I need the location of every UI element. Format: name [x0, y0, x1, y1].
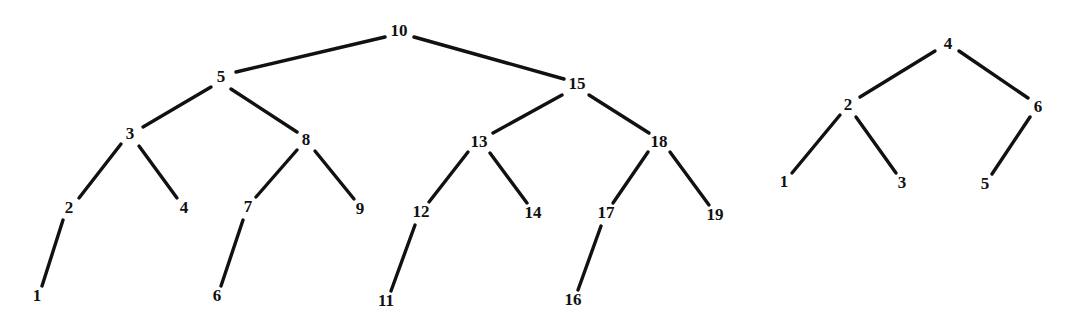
tree-node-label: 12	[413, 202, 430, 221]
tree-node-label: 11	[378, 291, 394, 310]
tree-edge	[613, 152, 648, 203]
left-tree: 10515381318247912141719161116	[33, 21, 724, 310]
tree-node-label: 3	[126, 124, 135, 143]
right-tree: 426135	[780, 34, 1043, 193]
tree-node-label: 13	[471, 132, 488, 151]
tree-node-label: 3	[898, 173, 907, 192]
tree-edge	[860, 51, 935, 97]
tree-edge	[236, 37, 385, 72]
tree-edge	[792, 115, 840, 173]
tree-node-label: 5	[981, 174, 990, 193]
left-tree-nodes: 10515381318247912141719161116	[33, 21, 724, 310]
tree-edge	[315, 151, 354, 199]
tree-node-label: 19	[707, 205, 724, 224]
tree-edge	[42, 220, 63, 286]
tree-node-label: 6	[213, 286, 222, 305]
right-tree-edges	[792, 51, 1030, 174]
tree-edge	[589, 95, 649, 133]
tree-edge	[490, 153, 527, 203]
tree-node-label: 9	[356, 199, 365, 218]
tree-diagram-canvas: 10515381318247912141719161116426135	[0, 0, 1066, 329]
tree-edge	[578, 226, 601, 290]
tree-edge	[391, 225, 415, 291]
tree-node-label: 7	[244, 197, 253, 216]
tree-node-label: 17	[598, 203, 616, 222]
left-tree-edges	[42, 37, 709, 291]
tree-edge	[256, 150, 297, 197]
tree-node-label: 8	[302, 130, 311, 149]
tree-edge	[221, 220, 243, 286]
right-tree-nodes: 426135	[780, 34, 1043, 193]
tree-node-label: 6	[1034, 97, 1043, 116]
tree-edge	[429, 152, 468, 202]
tree-edge	[493, 95, 562, 133]
tree-node-label: 15	[569, 74, 586, 93]
tree-node-label: 1	[780, 172, 789, 191]
tree-edge	[992, 117, 1030, 174]
tree-edge	[139, 146, 177, 198]
tree-node-label: 2	[65, 198, 74, 217]
tree-node-label: 5	[217, 67, 226, 86]
tree-edge	[143, 87, 211, 127]
tree-node-label: 18	[651, 132, 668, 151]
tree-node-label: 14	[525, 203, 543, 222]
tree-node-label: 4	[180, 198, 189, 217]
tree-edge	[670, 152, 709, 205]
tree-node-label: 1	[33, 286, 42, 305]
tree-node-label: 4	[944, 34, 953, 53]
tree-node-label: 10	[391, 21, 408, 40]
tree-edge	[959, 51, 1028, 98]
tree-node-label: 2	[844, 95, 853, 114]
tree-node-label: 16	[565, 290, 582, 309]
binary-tree-figure: 10515381318247912141719161116426135	[0, 0, 1066, 329]
tree-edge	[79, 144, 121, 198]
tree-edge	[231, 89, 297, 132]
tree-edge	[856, 117, 896, 173]
tree-edge	[414, 37, 564, 79]
